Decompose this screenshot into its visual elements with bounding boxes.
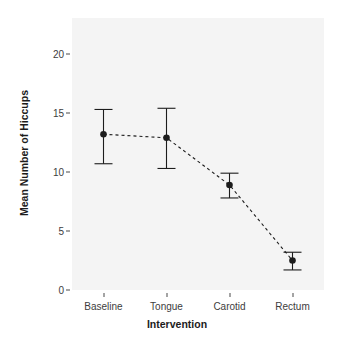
chart-data-layer xyxy=(0,0,354,351)
data-point-carotid xyxy=(226,182,233,189)
data-point-rectum xyxy=(289,257,296,264)
data-point-tongue xyxy=(163,134,170,141)
chart-figure: Mean Number of Hiccups 0 5 10 15 20 Base… xyxy=(0,0,354,351)
data-point-baseline xyxy=(100,131,107,138)
series-line xyxy=(104,134,293,260)
